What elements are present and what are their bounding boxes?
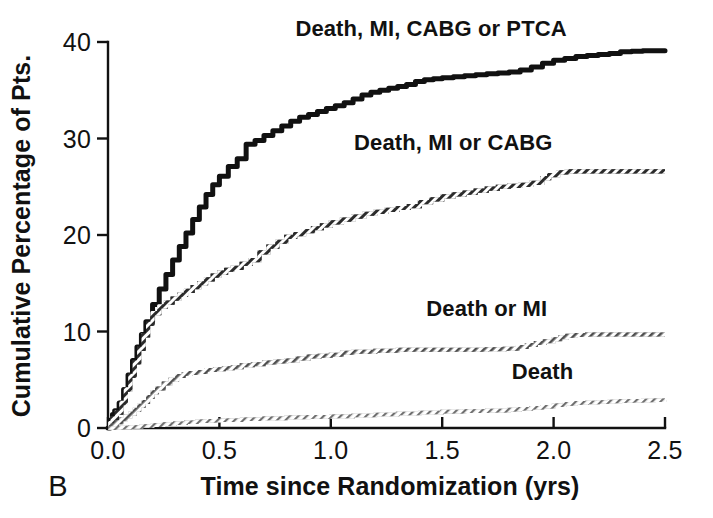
y-tick-label: 20 bbox=[63, 221, 91, 249]
data-series-group bbox=[108, 51, 665, 428]
y-axis-ticks bbox=[97, 42, 108, 428]
y-tick-label: 30 bbox=[63, 125, 91, 153]
series-line-hatch bbox=[108, 171, 665, 428]
x-tick-label: 1.0 bbox=[313, 436, 348, 464]
y-tick-label: 40 bbox=[63, 28, 91, 56]
x-tick-label: 0.5 bbox=[202, 436, 237, 464]
series-4 bbox=[108, 400, 665, 428]
series-label-4: Death bbox=[512, 359, 574, 384]
x-tick-label: 2.5 bbox=[647, 436, 682, 464]
x-tick-label: 0.0 bbox=[90, 436, 125, 464]
series-label-1: Death, MI, CABG or PTCA bbox=[295, 16, 566, 41]
x-tick-label: 2.0 bbox=[536, 436, 571, 464]
x-tick-label: 1.5 bbox=[425, 436, 460, 464]
x-axis-title: Time since Randomization (yrs) bbox=[200, 472, 579, 500]
figure-panel-b: 010203040 0.00.51.01.52.02.5 Death, MI, … bbox=[0, 0, 713, 518]
axes bbox=[97, 42, 665, 428]
series-label-2: Death, MI or CABG bbox=[354, 130, 553, 155]
series-line-hatch bbox=[108, 400, 665, 428]
series-2 bbox=[108, 171, 665, 428]
y-tick-label: 10 bbox=[63, 318, 91, 346]
series-label-3: Death or MI bbox=[426, 296, 547, 321]
cumulative-incidence-chart: 010203040 0.00.51.01.52.02.5 Death, MI, … bbox=[0, 0, 713, 518]
y-tick-label: 0 bbox=[77, 414, 91, 442]
y-axis-tick-labels: 010203040 bbox=[63, 28, 91, 442]
x-axis-tick-labels: 0.00.51.01.52.02.5 bbox=[90, 436, 682, 464]
panel-label: B bbox=[48, 470, 67, 502]
y-axis-title: Cumulative Percentage of Pts. bbox=[7, 55, 35, 418]
